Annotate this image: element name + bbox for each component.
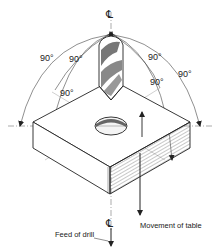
caption-feed-of-drill: Feed of drill — [55, 230, 95, 239]
angle-label-outer-right: 90° — [178, 69, 192, 79]
caption-movement-of-table: Movement of table — [140, 221, 202, 230]
feed-arrow-icon — [94, 228, 111, 246]
angle-label-mid-left: 90° — [69, 54, 83, 64]
angle-label-inner-left: 90° — [60, 88, 74, 98]
angle-label-inner-right: 90° — [150, 77, 164, 87]
drill-table-diagram: ℄ ℄ 90° 90° 90° 90° 90° 90° Feed of dril… — [0, 0, 222, 250]
angle-label-mid-right: 90° — [148, 52, 162, 62]
angle-label-outer-left: 90° — [40, 53, 54, 63]
drilled-hole — [95, 117, 127, 135]
centerline-symbol-top: ℄ — [105, 8, 113, 21]
centerline-symbol-bottom: ℄ — [105, 217, 113, 230]
drill-bit — [99, 36, 123, 100]
